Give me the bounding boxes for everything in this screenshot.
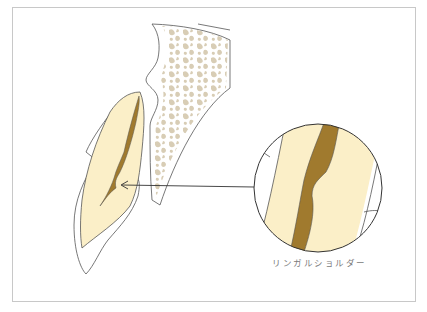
pointer-arrow — [121, 181, 254, 189]
alveolar-bone — [146, 24, 230, 205]
soft-tissue-line — [198, 24, 230, 30]
lingual-shoulder-label: リンガルショルダー — [272, 256, 367, 268]
magnified-circle-detail — [252, 120, 384, 260]
